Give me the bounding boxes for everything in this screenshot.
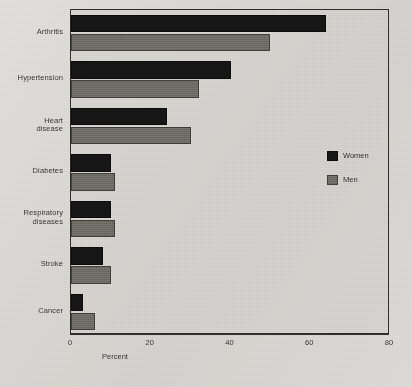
chart-page: ArthritisHypertensionHeartdiseaseDiabete… [0,0,412,387]
bar-men-heart-disease [71,127,191,145]
category-label-line: Diabetes [0,167,63,176]
bar-men-respiratory-diseases [71,220,115,238]
bar-women-cancer [71,294,83,312]
category-label-heart-disease: Heartdisease [0,117,63,134]
category-label-line: Hypertension [0,74,63,83]
category-label-diabetes: Diabetes [0,167,63,176]
x-tick-label-0: 0 [68,338,72,347]
bar-women-respiratory-diseases [71,201,111,219]
x-tick-label-80: 80 [385,338,393,347]
legend-label-men: Men [343,175,358,184]
bar-men-cancer [71,313,95,331]
x-axis-title-wrap: Percent [0,352,412,361]
category-label-line: disease [0,125,63,134]
bar-men-diabetes [71,173,115,191]
x-tick-label-40: 40 [225,338,233,347]
bar-women-diabetes [71,154,111,172]
legend-swatch-men-icon [327,175,338,185]
category-label-respiratory-diseases: Respiratorydiseases [0,209,63,226]
legend-item-men: Men [327,174,397,185]
legend-label-women: Women [343,151,369,160]
bar-women-heart-disease [71,108,167,126]
category-label-line: Stroke [0,260,63,269]
bar-women-arthritis [71,15,326,33]
x-axis-title: Percent [102,352,128,361]
x-axis-line [70,334,389,335]
category-label-stroke: Stroke [0,260,63,269]
category-label-line: diseases [0,218,63,227]
category-label-line: Cancer [0,307,63,316]
x-tick-label-20: 20 [146,338,154,347]
category-axis-labels: ArthritisHypertensionHeartdiseaseDiabete… [0,9,66,334]
category-label-arthritis: Arthritis [0,28,63,37]
category-label-line: Arthritis [0,28,63,37]
bar-men-stroke [71,266,111,284]
bar-women-hypertension [71,61,231,79]
bar-men-hypertension [71,80,199,98]
legend-swatch-women-icon [327,151,338,161]
category-label-hypertension: Hypertension [0,74,63,83]
x-tick-label-60: 60 [305,338,313,347]
bar-women-stroke [71,247,103,265]
chart-legend: Women Men [327,150,397,198]
legend-item-women: Women [327,150,397,161]
category-label-cancer: Cancer [0,307,63,316]
bar-men-arthritis [71,34,270,52]
